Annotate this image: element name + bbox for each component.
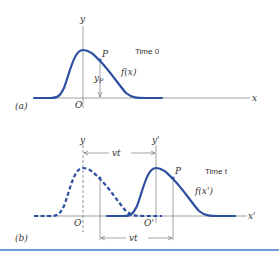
y-axis-old-label-b: y <box>79 135 86 145</box>
origin-new-label-b: O' <box>144 218 154 228</box>
panel-label-a: (a) <box>15 101 28 111</box>
yp-label: yP <box>93 73 104 85</box>
traveling-pulse-diagram: y x O P yP f(x) Time 0 (a) vt <box>0 0 279 253</box>
point-p-label-b: P <box>174 166 182 176</box>
origin-old-label-b: O <box>74 218 82 228</box>
x-axis-label-b: x' <box>248 211 256 221</box>
origin-label-a: O <box>75 100 83 110</box>
panel-a: y x O P yP f(x) Time 0 (a) <box>15 14 257 111</box>
y-axis-label-a: y <box>79 14 86 24</box>
point-p-marker-old-b <box>99 177 102 180</box>
vt-bottom-label: vt <box>129 233 138 243</box>
function-label-b: f(x') <box>194 186 213 196</box>
point-p-marker-new-b <box>171 176 174 179</box>
function-label-a: f(x) <box>120 67 137 77</box>
panel-label-b: (b) <box>15 233 28 243</box>
panel-b: vt vt y y' x' O O' P f(x') Time t (b) <box>15 135 256 243</box>
y-axis-new-label-b: y' <box>151 135 160 145</box>
point-p-label-a: P <box>101 49 109 59</box>
time-label-b: Time t <box>205 167 228 176</box>
x-axis-label-a: x <box>252 93 257 103</box>
vt-top-label: vt <box>112 148 121 158</box>
time-label-a: Time 0 <box>135 47 160 56</box>
